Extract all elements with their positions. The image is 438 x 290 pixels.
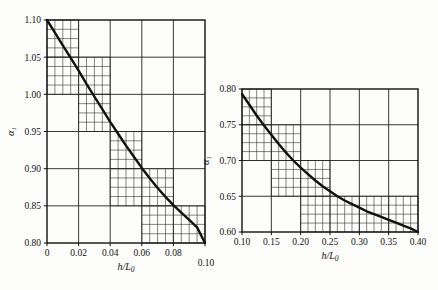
minor-grid-block [242, 89, 271, 125]
left-chart: 00.020.040.060.080.100.800.850.900.951.0… [5, 15, 215, 274]
y-tick-label: 0.90 [24, 164, 41, 174]
y-tick-label: 0.70 [219, 156, 236, 166]
y-tick-label: 0.85 [24, 201, 41, 211]
x-tick-label: 0.15 [263, 237, 280, 247]
y-axis-title: α1 [200, 156, 213, 165]
right-chart: 0.100.150.200.250.300.350.400.600.650.70… [200, 84, 427, 263]
x-tick-label: 0.40 [410, 237, 427, 247]
x-tick-label: 0.02 [70, 248, 87, 258]
x-tick-label: 0.35 [380, 237, 397, 247]
y-tick-label: 0.60 [219, 227, 236, 237]
x-tick-label: 0.04 [102, 248, 119, 258]
x-tick-label: 0.25 [322, 237, 339, 247]
x-tick-label: 0.06 [133, 248, 150, 258]
y-tick-label: 1.10 [24, 15, 41, 25]
y-tick-label: 1.00 [24, 90, 41, 100]
x-tick-label: 0.10 [198, 258, 215, 268]
y-axis-title: α1 [5, 127, 18, 136]
y-tick-label: 0.80 [219, 84, 236, 94]
y-tick-label: 0.95 [24, 127, 41, 137]
y-tick-label: 0.80 [24, 238, 41, 248]
x-tick-label: 0.20 [292, 237, 309, 247]
charts-svg: 00.020.040.060.080.100.800.850.900.951.0… [0, 0, 438, 290]
x-axis-title: h/L0 [321, 250, 338, 263]
x-tick-label: 0 [45, 248, 50, 258]
figure-container: 00.020.040.060.080.100.800.850.900.951.0… [0, 0, 438, 290]
x-tick-label: 0.30 [351, 237, 368, 247]
y-tick-label: 1.05 [24, 53, 41, 63]
x-axis-title: h/L0 [117, 261, 134, 274]
y-tick-label: 0.75 [219, 120, 236, 130]
x-tick-label: 0.10 [234, 237, 251, 247]
x-tick-label: 0.08 [165, 248, 182, 258]
y-tick-label: 0.65 [219, 192, 236, 202]
